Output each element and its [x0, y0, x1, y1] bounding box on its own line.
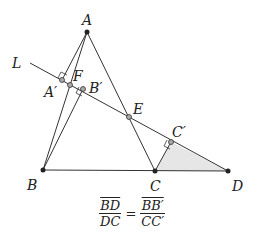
shaded-triangle-ccd	[155, 142, 228, 171]
numerator-bd: BD	[99, 198, 121, 213]
label-c-prime: C′	[172, 124, 187, 140]
segment-ab	[43, 32, 87, 170]
point-f	[68, 83, 73, 88]
point-a	[85, 30, 90, 35]
fraction-bb-cc: BB′ CC′	[140, 198, 165, 229]
point-c-prime	[169, 140, 174, 145]
numerator-bb-prime: BB′	[141, 198, 165, 213]
label-f: F	[72, 68, 84, 84]
point-e	[127, 115, 132, 120]
point-c	[153, 169, 158, 174]
point-b	[41, 168, 46, 173]
label-d: D	[231, 178, 243, 194]
label-e: E	[132, 101, 143, 117]
label-a: A	[80, 12, 92, 28]
denominator-cc-prime: CC′	[140, 213, 165, 229]
label-c: C	[150, 178, 161, 194]
label-a-prime: A′	[42, 84, 58, 100]
point-d	[226, 169, 231, 174]
ratio-formula: BD DC = BB′ CC′	[99, 198, 165, 229]
denominator-dc: DC	[99, 213, 121, 229]
label-b: B	[26, 177, 37, 193]
fraction-bd-dc: BD DC	[99, 198, 121, 229]
equals-sign: =	[125, 206, 136, 221]
segment-bb-prime	[43, 89, 83, 170]
point-b-prime	[81, 87, 86, 92]
label-b-prime: B′	[88, 80, 103, 96]
segment-ac	[87, 32, 155, 171]
label-l: L	[11, 55, 21, 71]
point-a-prime	[60, 78, 65, 83]
